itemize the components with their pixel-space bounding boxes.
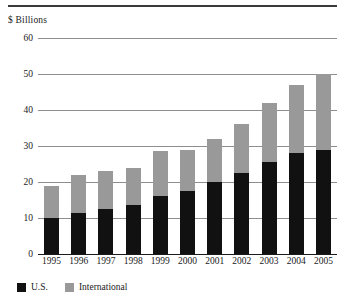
bar-segment[interactable] — [71, 175, 86, 213]
bar-segment[interactable] — [126, 168, 141, 206]
bar-segment[interactable] — [289, 153, 304, 254]
bar-segment[interactable] — [44, 186, 59, 218]
bar-segment[interactable] — [71, 213, 86, 254]
x-axis-tick-label: 1998 — [124, 256, 143, 266]
bar-segment[interactable] — [153, 196, 168, 254]
chart-figure: $ Billions 0102030405060 199519961997199… — [0, 0, 345, 299]
bar-segment[interactable] — [98, 171, 113, 209]
bar-segment[interactable] — [44, 218, 59, 254]
x-axis-baseline: 0 — [38, 254, 337, 255]
bar-segment[interactable] — [180, 150, 195, 191]
legend-label: International — [79, 282, 128, 292]
bar-segment[interactable] — [98, 209, 113, 254]
legend-swatch-icon — [17, 283, 26, 292]
y-axis-tick-label: 30 — [24, 141, 34, 151]
chart-legend: U.S.International — [17, 282, 127, 292]
bar-segment[interactable] — [234, 124, 249, 173]
x-axis-tick-label: 1996 — [69, 256, 88, 266]
y-axis-tick-label: 50 — [24, 69, 34, 79]
figure-top-rule — [8, 5, 337, 7]
bar-series-container — [38, 38, 337, 254]
y-axis-tick-label: 0 — [28, 249, 33, 259]
bar-segment[interactable] — [262, 162, 277, 254]
bar-segment[interactable] — [207, 139, 222, 182]
x-axis-tick-label: 2001 — [205, 256, 224, 266]
legend-item[interactable]: International — [65, 282, 128, 292]
y-axis-tick-label: 10 — [24, 213, 34, 223]
bar-segment[interactable] — [316, 150, 331, 254]
y-axis-tick-label: 40 — [24, 105, 34, 115]
x-axis-tick-labels: 1995199619971998199920002001200220032004… — [38, 256, 337, 270]
x-axis-tick-label: 1997 — [96, 256, 115, 266]
legend-swatch-icon — [65, 283, 74, 292]
bar-segment[interactable] — [153, 151, 168, 196]
x-axis-tick-label: 2002 — [232, 256, 251, 266]
bar-segment[interactable] — [262, 103, 277, 162]
x-axis-tick-label: 2004 — [287, 256, 306, 266]
plot-area: 0102030405060 — [38, 38, 337, 254]
bar-segment[interactable] — [180, 191, 195, 254]
x-axis-tick-label: 1995 — [42, 256, 61, 266]
legend-label: U.S. — [31, 282, 48, 292]
x-axis-tick-label: 1999 — [151, 256, 170, 266]
x-axis-tick-label: 2000 — [178, 256, 197, 266]
bar-segment[interactable] — [126, 205, 141, 254]
y-axis-tick-label: 20 — [24, 177, 34, 187]
legend-item[interactable]: U.S. — [17, 282, 48, 292]
bar-segment[interactable] — [234, 173, 249, 254]
bar-segment[interactable] — [207, 182, 222, 254]
bar-segment[interactable] — [316, 74, 331, 150]
bar-segment[interactable] — [289, 85, 304, 153]
y-axis-unit-label: $ Billions — [8, 15, 47, 25]
y-axis-tick-label: 60 — [24, 33, 34, 43]
x-axis-tick-label: 2003 — [260, 256, 279, 266]
x-axis-tick-label: 2005 — [314, 256, 333, 266]
